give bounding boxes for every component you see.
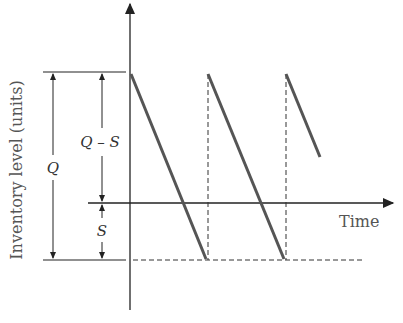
inventory-segment-3 — [286, 74, 320, 157]
s-label: S — [97, 222, 107, 240]
inventory-segment-1 — [131, 74, 206, 259]
q-minus-s-label: Q – S — [80, 133, 120, 151]
inventory-segment-2 — [208, 74, 284, 259]
inventory-diagram: Q Q – S S Time Inventory level (units) — [0, 0, 403, 323]
y-axis-label: Inventory level (units) — [7, 80, 26, 259]
q-label: Q — [47, 159, 59, 177]
time-axis-label: Time — [339, 212, 379, 231]
